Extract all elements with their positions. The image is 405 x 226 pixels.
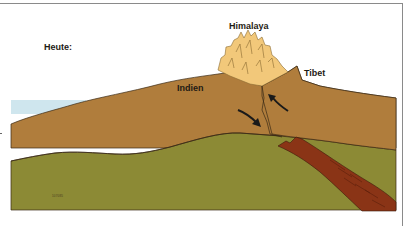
- himalaya-cross-section: [0, 0, 405, 226]
- indien-label: Indien: [177, 83, 204, 93]
- time-label: Heute:: [44, 42, 72, 52]
- himalaya-label: Himalaya: [229, 21, 269, 31]
- credit-label: 107085: [52, 194, 63, 198]
- tibet-label: Tibet: [304, 68, 325, 78]
